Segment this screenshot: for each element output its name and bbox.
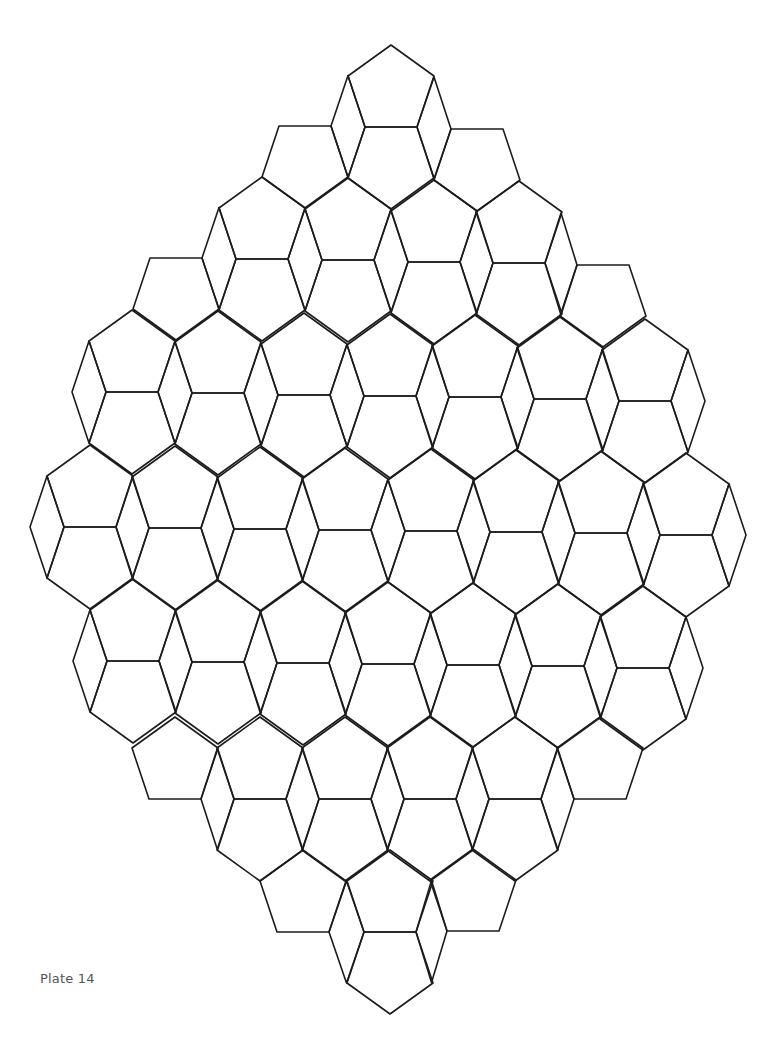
rhombus	[288, 209, 322, 311]
rhombus	[542, 482, 575, 584]
rhombus	[414, 614, 447, 716]
rhombus	[374, 210, 408, 312]
pentagon-tiling-diagram	[0, 0, 775, 1057]
rhombus	[501, 347, 534, 449]
rhombus	[456, 748, 489, 850]
rhombus	[244, 343, 278, 445]
rhombus	[201, 748, 234, 850]
tiling-group	[30, 45, 746, 1014]
rhombus	[416, 881, 447, 983]
rhombus	[541, 748, 574, 850]
rhombus	[329, 613, 362, 715]
rhombus	[244, 612, 277, 714]
rhombus	[331, 76, 365, 178]
rhombus	[371, 748, 404, 850]
rhombus	[159, 611, 192, 713]
rhombus-edge	[671, 350, 705, 452]
rhombus	[371, 480, 405, 582]
rhombus	[586, 349, 619, 451]
rhombus	[545, 213, 577, 315]
rhombus	[499, 615, 532, 717]
rhombus-edge	[712, 484, 746, 586]
rhombus	[416, 346, 449, 448]
rhombus	[329, 881, 364, 983]
rhombus	[457, 481, 490, 583]
rhombus	[330, 345, 364, 447]
rhombus	[584, 616, 617, 718]
rhombus	[202, 208, 236, 310]
rhombus	[417, 77, 451, 179]
rhombus	[460, 212, 493, 314]
rhombus	[286, 748, 319, 850]
pentagon-down	[560, 265, 646, 347]
rhombus	[286, 479, 319, 581]
pentagon-up	[557, 717, 643, 799]
rhombus-edge	[72, 341, 106, 443]
rhombus	[158, 342, 192, 444]
rhombus-edge	[73, 610, 107, 712]
pentagon-down	[434, 129, 520, 211]
pentagon-up	[430, 849, 516, 931]
rhombus-edge	[669, 617, 703, 719]
rhombus	[116, 477, 149, 579]
plate-label: Plate 14	[40, 971, 95, 986]
rhombus	[627, 483, 660, 585]
rhombus-edge	[30, 476, 64, 578]
rhombus	[201, 478, 234, 580]
